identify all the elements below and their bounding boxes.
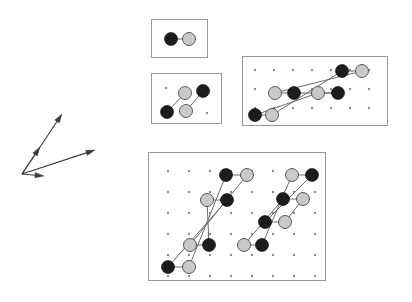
lattice-dot <box>330 88 332 90</box>
site-light[interactable] <box>297 193 310 206</box>
vector-long-right <box>22 150 95 174</box>
lattice-dot <box>188 170 190 172</box>
site-light[interactable] <box>269 87 282 100</box>
lattice-dot <box>293 233 295 235</box>
lattice-dot <box>167 170 169 172</box>
site-dark[interactable] <box>162 261 175 274</box>
site-light[interactable] <box>201 194 214 207</box>
lattice-dot <box>293 254 295 256</box>
site-light[interactable] <box>279 216 292 229</box>
site-light[interactable] <box>183 33 196 46</box>
lattice-dot <box>311 69 313 71</box>
site-dark[interactable] <box>256 239 269 252</box>
panel-two-dimers <box>152 74 222 124</box>
vector-short-up <box>22 147 40 174</box>
lattice-dot <box>165 87 167 89</box>
lattice-dot <box>311 107 313 109</box>
lattice-dot <box>330 107 332 109</box>
site-dark[interactable] <box>197 85 210 98</box>
site-light[interactable] <box>184 239 197 252</box>
lattice-dot <box>314 254 316 256</box>
lattice-dot <box>206 112 208 114</box>
site-light[interactable] <box>286 169 299 182</box>
lattice-dot <box>273 69 275 71</box>
lattice-dot <box>188 233 190 235</box>
lattice-dot <box>251 275 253 277</box>
vector-long-right-head <box>86 150 95 155</box>
site-dark[interactable] <box>332 87 345 100</box>
lattice-dot <box>314 212 316 214</box>
lattice-dot <box>330 69 332 71</box>
lattice-dot <box>167 275 169 277</box>
site-dark[interactable] <box>221 194 234 207</box>
lattice-dot <box>251 191 253 193</box>
site-dark[interactable] <box>336 65 349 78</box>
lattice-dot <box>272 191 274 193</box>
lattice-dot <box>349 107 351 109</box>
lattice-dot <box>254 69 256 71</box>
lattice-dot <box>368 107 370 109</box>
site-dark[interactable] <box>259 216 272 229</box>
site-light[interactable] <box>179 87 192 100</box>
lattice-dot <box>209 170 211 172</box>
lattice-dot <box>230 212 232 214</box>
panel-large-lattice-frame <box>149 153 326 281</box>
site-light[interactable] <box>180 105 193 118</box>
lattice-dot <box>188 254 190 256</box>
figure-root <box>0 0 412 302</box>
vector-long-up-head <box>55 114 62 123</box>
lattice-dot <box>314 275 316 277</box>
lattice-dot <box>272 233 274 235</box>
site-dark[interactable] <box>220 169 233 182</box>
site-dark[interactable] <box>306 169 319 182</box>
lattice-dot <box>167 212 169 214</box>
site-light[interactable] <box>238 239 251 252</box>
lattice-dot <box>230 275 232 277</box>
site-light[interactable] <box>356 65 369 78</box>
site-light[interactable] <box>183 261 196 274</box>
site-dark[interactable] <box>203 239 216 252</box>
panel-large-lattice <box>149 153 326 281</box>
lattice-dot <box>349 88 351 90</box>
lattice-dot <box>188 275 190 277</box>
vector-short-left-head <box>35 172 44 177</box>
lattice-dot <box>292 107 294 109</box>
figure-canvas <box>0 0 412 302</box>
lattice-dot <box>272 170 274 172</box>
vector-short-up-shaft <box>22 152 37 174</box>
basis-vector-group <box>22 114 95 178</box>
site-dark[interactable] <box>249 109 262 122</box>
site-dark[interactable] <box>161 106 174 119</box>
lattice-dot <box>188 212 190 214</box>
lattice-dot <box>167 191 169 193</box>
lattice-dot <box>293 275 295 277</box>
panel-single-dimer <box>152 20 208 58</box>
lattice-dot <box>314 191 316 193</box>
lattice-dot <box>209 254 211 256</box>
lattice-dot <box>272 275 274 277</box>
lattice-dot <box>209 233 211 235</box>
lattice-dot <box>272 254 274 256</box>
site-dark[interactable] <box>288 87 301 100</box>
lattice-dot <box>314 233 316 235</box>
lattice-dot <box>230 254 232 256</box>
lattice-dot <box>368 88 370 90</box>
vector-long-right-shaft <box>22 152 89 174</box>
panel-medium-lattice <box>243 57 388 126</box>
site-light[interactable] <box>312 87 325 100</box>
lattice-dot <box>167 233 169 235</box>
lattice-dot <box>251 212 253 214</box>
lattice-dot <box>209 275 211 277</box>
site-dark[interactable] <box>277 193 290 206</box>
lattice-dot <box>209 191 211 193</box>
site-light[interactable] <box>266 109 279 122</box>
lattice-dot <box>251 254 253 256</box>
lattice-dot <box>254 88 256 90</box>
lattice-dot <box>167 254 169 256</box>
lattice-dot <box>292 69 294 71</box>
lattice-dot <box>188 191 190 193</box>
site-dark[interactable] <box>165 33 178 46</box>
vector-short-up-head <box>33 147 40 156</box>
site-light[interactable] <box>241 169 254 182</box>
lattice-dot <box>230 233 232 235</box>
